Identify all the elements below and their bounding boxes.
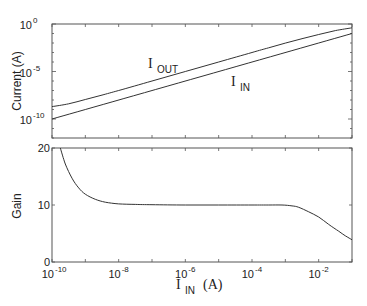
gain-axes: 0102010-1010-810-610-410-2 bbox=[38, 142, 352, 280]
x-tick-label: 10 bbox=[242, 268, 254, 280]
y-tick-label: 20 bbox=[38, 142, 50, 154]
y-tick-label: 10 bbox=[20, 114, 32, 126]
x-tick-label-exponent: -6 bbox=[188, 265, 196, 274]
x-tick-label-exponent: -10 bbox=[55, 265, 67, 274]
y-tick-label-exponent: 0 bbox=[33, 16, 38, 25]
current-plot-frame bbox=[52, 24, 352, 138]
iout-series-label: I OUT bbox=[148, 56, 178, 75]
current-y-axis-label: Current (A) bbox=[10, 51, 24, 110]
x-axis-label-sub: IN bbox=[185, 285, 195, 296]
y-tick-label: 10 bbox=[38, 199, 50, 211]
series-line-i-in bbox=[52, 34, 352, 120]
iin-series-label: I IN bbox=[231, 74, 250, 93]
y-tick-label: 10 bbox=[20, 19, 32, 31]
iout-label-main: I bbox=[148, 56, 153, 71]
x-tick-label: 10 bbox=[42, 268, 54, 280]
x-axis-label-main: I bbox=[176, 277, 181, 292]
iin-label-main: I bbox=[231, 74, 236, 89]
series-line-i-out bbox=[52, 28, 352, 107]
x-tick-label-exponent: -2 bbox=[322, 265, 330, 274]
x-tick-label: 10 bbox=[108, 268, 120, 280]
y-tick-label: 0 bbox=[44, 256, 50, 268]
x-tick-label: 10 bbox=[308, 268, 320, 280]
x-axis-label-unit: (A) bbox=[203, 277, 223, 293]
current-axes: 10010-510-10 bbox=[20, 16, 352, 138]
gain-y-axis-label: Gain bbox=[10, 193, 24, 218]
iout-label-sub: OUT bbox=[157, 64, 178, 75]
x-tick-label-exponent: -8 bbox=[122, 265, 130, 274]
x-tick-label-exponent: -4 bbox=[255, 265, 263, 274]
iin-label-sub: IN bbox=[240, 82, 250, 93]
y-tick-label-exponent: -10 bbox=[33, 111, 45, 120]
figure: 10010-510-10 0102010-1010-810-610-410-2 … bbox=[0, 0, 367, 306]
series-line-gain bbox=[60, 148, 352, 240]
y-tick-label-exponent: -5 bbox=[33, 64, 41, 73]
